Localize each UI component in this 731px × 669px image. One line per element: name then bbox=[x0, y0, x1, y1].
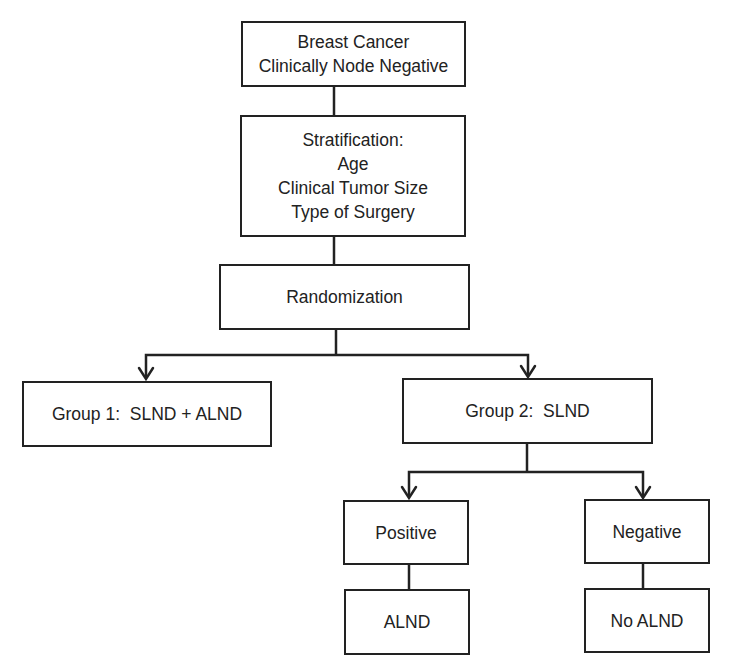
node-population: Breast Cancer Clinically Node Negative bbox=[241, 21, 466, 87]
node-negative: Negative bbox=[584, 499, 710, 564]
edge-randomization-groups bbox=[146, 355, 528, 378]
node-group1: Group 1: SLND + ALND bbox=[22, 381, 272, 447]
stratification-factor: Age bbox=[337, 152, 368, 176]
node-stratification: Stratification: Age Clinical Tumor Size … bbox=[240, 115, 466, 237]
node-randomization: Randomization bbox=[219, 264, 470, 330]
node-population-line2: Clinically Node Negative bbox=[259, 54, 449, 78]
node-positive-label: Positive bbox=[375, 521, 436, 545]
node-population-line1: Breast Cancer bbox=[298, 30, 410, 54]
connector-lines bbox=[0, 0, 731, 669]
node-positive: Positive bbox=[343, 500, 469, 565]
node-alnd-label: ALND bbox=[384, 610, 431, 634]
node-alnd: ALND bbox=[344, 589, 470, 655]
node-randomization-label: Randomization bbox=[286, 285, 403, 309]
stratification-factor: Clinical Tumor Size bbox=[278, 176, 428, 200]
node-negative-label: Negative bbox=[612, 520, 681, 544]
node-no-alnd: No ALND bbox=[584, 588, 710, 653]
stratification-heading: Stratification: bbox=[302, 128, 403, 152]
stratification-factor: Type of Surgery bbox=[291, 200, 415, 224]
node-group1-label: Group 1: SLND + ALND bbox=[52, 402, 242, 426]
edge-group2-results bbox=[409, 472, 643, 497]
node-group2: Group 2: SLND bbox=[402, 378, 653, 444]
node-group2-label: Group 2: SLND bbox=[465, 399, 590, 423]
node-no-alnd-label: No ALND bbox=[611, 609, 684, 633]
